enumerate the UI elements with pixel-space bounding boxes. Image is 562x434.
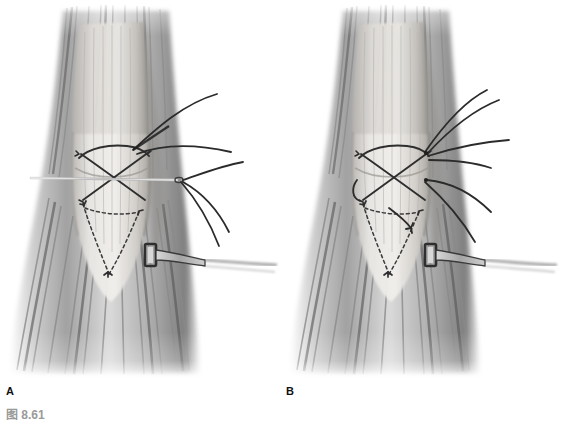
panel-b-illustration (285, 2, 557, 380)
panel-label-a: A (6, 386, 14, 397)
anatomy-illustration-svg (0, 0, 562, 434)
figure-illustration: A B 图 8.61 (0, 0, 562, 434)
panel-label-b: B (286, 386, 294, 397)
figure-caption: 图 8.61 (6, 409, 45, 421)
panel-a-illustration (5, 2, 277, 380)
